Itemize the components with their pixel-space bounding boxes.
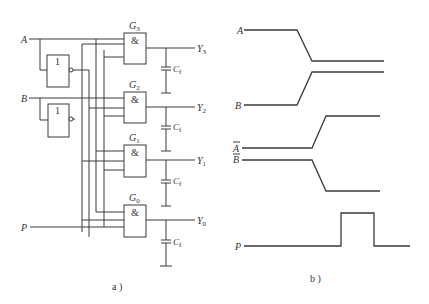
waveform-b (244, 72, 384, 105)
inverter-2-bubble-icon (69, 117, 73, 121)
caption-b: b ) (310, 273, 321, 285)
input-label-p: P (20, 222, 27, 233)
signal-label-p: P (234, 241, 241, 252)
waveform-a (244, 30, 384, 61)
gate-g3: & G3 (124, 20, 146, 64)
decoder-glitch-figure: A B P 1 1 (0, 0, 429, 304)
cap-y3-label: Cf (173, 64, 182, 76)
inverter-1-bubble-icon (69, 68, 73, 72)
gate-g2-label: G2 (129, 79, 140, 92)
circuit-diagram: A B P 1 1 (20, 20, 207, 293)
cap-y0-label: Cf (173, 237, 182, 249)
signal-label-b-bar: B (233, 154, 239, 165)
cap-y1-label: Cf (173, 176, 182, 188)
gate-g0: & G0 (124, 192, 146, 237)
waveform-b-bar (242, 160, 380, 191)
wire-b-to-inv2 (40, 98, 48, 120)
gate-g3-symbol: & (131, 35, 139, 46)
inverter-2-symbol: 1 (55, 105, 60, 116)
gate-g0-symbol: & (131, 207, 139, 218)
gate-g2-symbol: & (131, 94, 139, 105)
signal-label-b: B (235, 100, 241, 111)
input-label-b: B (21, 93, 27, 104)
waveform-a-bar (242, 116, 380, 148)
input-label-a: A (20, 34, 28, 45)
inverter-1-symbol: 1 (55, 56, 60, 67)
signal-label-a-bar: A (232, 143, 240, 154)
gate-g1: & G1 (124, 132, 146, 177)
bus-b-up (82, 44, 124, 98)
output-label-y0: Y0 (197, 215, 207, 228)
caption-a: a ) (112, 281, 122, 293)
gate-g3-label: G3 (129, 20, 140, 33)
output-label-y1: Y1 (197, 155, 207, 168)
cap-y2-label: Cf (173, 122, 182, 134)
timing-diagram: A B A B P b ) (232, 25, 410, 285)
gate-g1-label: G1 (129, 132, 140, 145)
output-label-y2: Y2 (197, 102, 207, 115)
signal-label-a: A (236, 25, 244, 36)
gate-g1-symbol: & (131, 147, 139, 158)
bus-a-bar (73, 70, 89, 237)
waveform-p (244, 213, 410, 246)
gate-g0-label: G0 (129, 192, 140, 205)
wire-a-to-inv1 (40, 39, 47, 70)
gate-g2: & G2 (124, 79, 146, 123)
output-label-y3: Y3 (197, 43, 207, 56)
